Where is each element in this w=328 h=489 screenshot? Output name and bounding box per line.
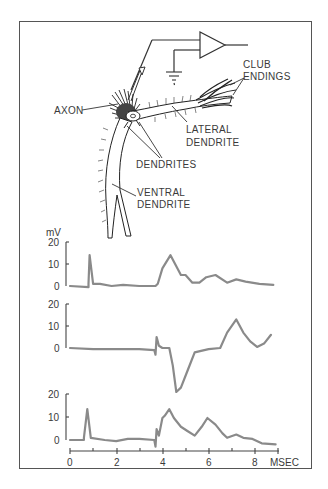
svg-text:20: 20 (48, 299, 60, 310)
label-dendrites: DENDRITES (136, 159, 197, 170)
svg-text:0: 0 (67, 457, 73, 468)
svg-text:4: 4 (160, 457, 166, 468)
trace-3 (70, 409, 276, 446)
electrode (128, 67, 145, 101)
svg-text:20: 20 (48, 237, 60, 248)
svg-text:2: 2 (114, 457, 120, 468)
y-tick-labels: 20 10 0 20 10 0 20 10 0 (48, 237, 60, 446)
trace-1 (70, 255, 273, 287)
svg-text:10: 10 (48, 259, 60, 270)
svg-text:0: 0 (54, 281, 60, 292)
svg-text:10: 10 (48, 412, 60, 423)
svg-text:10: 10 (48, 321, 60, 332)
svg-text:20: 20 (48, 389, 60, 400)
figure-canvas: CLUB ENDINGS AXON LATERAL DENDRITE DENDR… (0, 0, 328, 489)
x-axis-label: MSEC (270, 457, 299, 468)
ground-icon (166, 72, 182, 85)
x-tick-labels: 0 2 4 6 8 MSEC (67, 457, 299, 468)
label-ventral-dendrite: VENTRAL (137, 187, 185, 198)
svg-text:0: 0 (54, 435, 60, 446)
svg-text:8: 8 (252, 457, 258, 468)
svg-text:0: 0 (54, 343, 60, 354)
label-ventral-dendrite-2: DENDRITE (137, 199, 191, 210)
label-lateral-dendrite-2: DENDRITE (186, 137, 240, 148)
label-club-endings-2: ENDINGS (243, 71, 291, 82)
label-club-endings: CLUB (243, 59, 271, 70)
trace-2 (70, 319, 271, 392)
label-lateral-dendrite: LATERAL (186, 124, 232, 135)
voltage-traces (70, 255, 276, 446)
label-axon: AXON (54, 105, 84, 116)
svg-text:6: 6 (206, 457, 212, 468)
